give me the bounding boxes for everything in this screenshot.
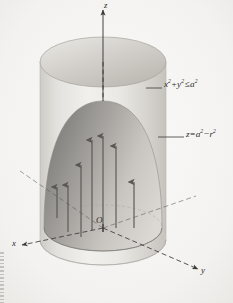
scan-edge-artifact [0, 252, 4, 303]
diagram-svg [0, 0, 233, 303]
axis-label-x: x [12, 239, 16, 248]
origin-label: O [96, 216, 103, 225]
axis-label-y: y [201, 266, 205, 275]
cylinder-exp-3: 2 [195, 78, 198, 84]
paraboloid-exp-2: 2 [213, 128, 216, 134]
label-paraboloid-equation: z=a2−r2 [186, 130, 216, 139]
axis-label-z: z [104, 1, 107, 10]
figure-canvas: x2+y2≤a2 z=a2−r2 z x y O [0, 0, 233, 303]
label-cylinder-equation: x2+y2≤a2 [164, 80, 198, 89]
